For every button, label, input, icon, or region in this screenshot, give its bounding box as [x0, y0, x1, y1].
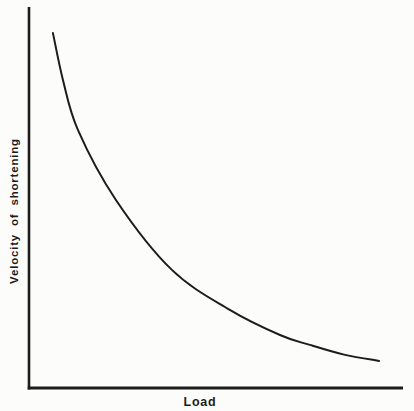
force-velocity-curve — [53, 33, 379, 361]
force-velocity-chart: Velocity of shortening Load — [0, 0, 414, 411]
curve-svg — [0, 0, 414, 411]
x-axis-label: Load — [168, 395, 232, 409]
y-axis-label: Velocity of shortening — [8, 131, 20, 291]
